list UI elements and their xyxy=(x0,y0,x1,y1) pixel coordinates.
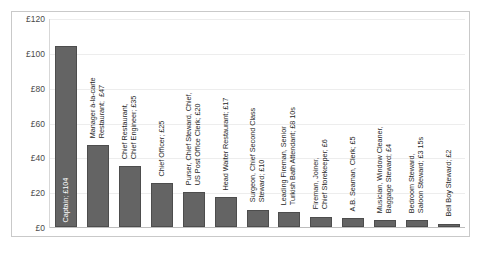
bar-data-label: Manager à-la-carte Restaurant; £47 xyxy=(89,77,106,138)
bar-data-label: A.B. Seaman, Clerk; £5 xyxy=(349,136,358,211)
bar-data-label: Chief Restaurant, Chief Engineer; £35 xyxy=(121,95,138,159)
y-axis-tick-label: £20 xyxy=(11,189,45,198)
bar[interactable] xyxy=(215,197,237,227)
y-axis-tick-label: £120 xyxy=(11,15,45,24)
bar-data-label: Bedroom Steward, Saloon Steward; £3 15s xyxy=(409,137,426,213)
y-axis-tick-label: £40 xyxy=(11,154,45,163)
bar-data-label: Captain; £104 xyxy=(62,178,71,223)
bar-data-label: Surgeon, Chief Second Class Steward; £10 xyxy=(249,108,266,202)
bar[interactable] xyxy=(119,166,141,227)
y-axis-tick-label: £80 xyxy=(11,84,45,93)
bar-data-label: Leading Fireman, Senior Turkish Bath Att… xyxy=(281,107,298,205)
bar[interactable] xyxy=(151,183,173,227)
y-axis-tick-label: £0 xyxy=(11,224,45,233)
bar-data-label: Head Waiter Restaurant; £17 xyxy=(221,98,230,191)
chart-frame: £0£20£40£60£80£100£120 Captain; £104Mana… xyxy=(11,11,470,237)
bar-data-label: Musician, Window Cleaner, Baggage Stewar… xyxy=(377,126,394,213)
y-axis-tick-label: £60 xyxy=(11,119,45,128)
bars-layer: Captain; £104Manager à-la-carte Restaura… xyxy=(50,19,465,228)
bar[interactable] xyxy=(247,210,269,227)
y-axis-tick-label: £100 xyxy=(11,50,45,59)
bar-data-label: Bell Boy Steward; £2 xyxy=(445,150,454,217)
plot-area: Captain; £104Manager à-la-carte Restaura… xyxy=(49,19,465,228)
bar-data-label: Chief Officer; £25 xyxy=(157,121,166,177)
bar[interactable] xyxy=(310,217,332,227)
bar[interactable] xyxy=(374,220,396,227)
bar-data-label: Purser, Chief Steward, Chief, US Post Of… xyxy=(185,93,202,186)
chart-container: £0£20£40£60£80£100£120 Captain; £104Mana… xyxy=(0,0,482,258)
x-axis-baseline xyxy=(50,227,465,228)
y-axis: £0£20£40£60£80£100£120 xyxy=(12,12,49,236)
bar[interactable] xyxy=(342,218,364,227)
bar-data-label: Fireman, Joiner, Chief Storekeeper; £6 xyxy=(313,140,330,210)
bar[interactable] xyxy=(183,192,205,227)
bar[interactable] xyxy=(87,145,109,227)
bar[interactable] xyxy=(278,212,300,227)
